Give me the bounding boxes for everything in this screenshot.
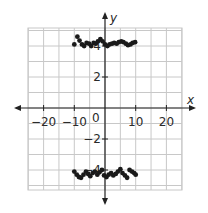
x-axis-label: x [186, 93, 195, 107]
y-tick-label: −2 [83, 132, 101, 146]
data-point-upper [72, 42, 77, 47]
data-point-lower [125, 175, 130, 180]
tick-labels: x y 0 −20−101020−4−224 [31, 11, 195, 177]
scatter-chart: x y 0 −20−101020−4−224 [0, 0, 208, 213]
data-point-lower [133, 172, 138, 177]
data-point-upper [133, 40, 138, 45]
x-tick-label: 10 [128, 115, 143, 129]
origin-label: 0 [92, 111, 100, 125]
data-point-lower [100, 168, 105, 173]
x-tick-label: 20 [159, 115, 174, 129]
x-tick-label: −20 [31, 115, 56, 129]
y-axis-label: y [109, 11, 118, 25]
y-axis-down-arrow [102, 198, 108, 205]
y-axis-up-arrow [102, 12, 108, 19]
y-tick-label: 2 [93, 70, 101, 84]
x-axis-left-arrow [14, 105, 21, 111]
x-tick-label: −10 [62, 115, 87, 129]
